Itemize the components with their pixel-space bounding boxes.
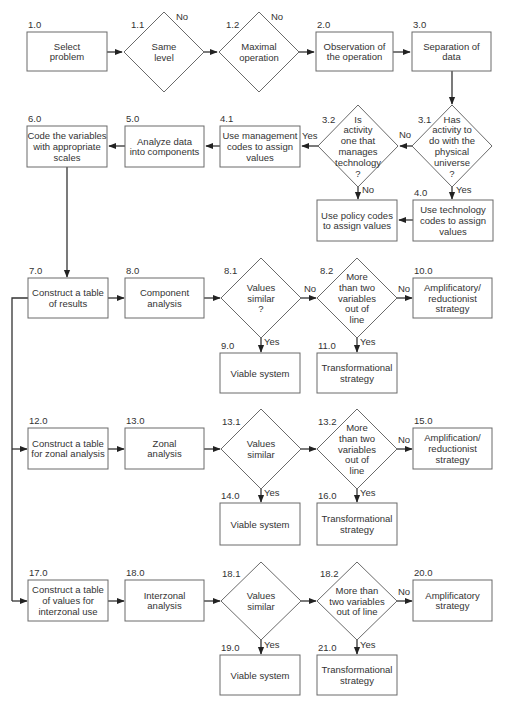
node-text-line: physical (435, 146, 469, 157)
node-text-line: Observation of (324, 41, 386, 52)
node-text-line: Same (152, 41, 177, 52)
node-id-label: 3.2 (322, 114, 335, 125)
node-id-label: 14.0 (221, 490, 240, 501)
node-text-line: More (346, 271, 368, 282)
decision-18-1: 18.1Valuessimilar (221, 562, 301, 640)
edge-label-3.2-yes: Yes (302, 130, 318, 141)
edge-label-13.2-no: No (398, 434, 410, 445)
process-18-0: 18.0Interzonalanalysis (125, 567, 204, 621)
node-text-line: Use technology (420, 204, 486, 215)
process-1-0: 1.0Selectproblem (27, 19, 107, 71)
decision-1-1: 1.1Samelevel (124, 12, 204, 92)
node-text-line: Viable system (231, 368, 290, 379)
node-text-line: data (442, 51, 461, 62)
node-text-line: Amplificatory (425, 590, 480, 601)
process-13-0: 13.0Zonalanalysis (125, 415, 204, 469)
node-id-label: 4.0 (414, 187, 427, 198)
decision-1-2: 1.2Maximaloperation (219, 12, 299, 92)
nodes-layer: 1.0Selectproblem1.1Samelevel1.2Maximalop… (27, 12, 493, 695)
flowchart: No No No Yes Yes No No Yes No Yes Yes No… (0, 0, 505, 704)
node-id-label: 15.0 (414, 415, 433, 426)
node-text-line: interzonal use (38, 606, 97, 617)
node-text-line: Code the variables (27, 130, 106, 141)
node-text-line: ? (449, 168, 454, 179)
process-12-0: 12.0Construct a tablefor zonal analysis (28, 415, 108, 469)
process-17-0: 17.0Construct a tableof values forinterz… (28, 567, 108, 621)
node-text-line: do with the (429, 135, 475, 146)
node-text-line: Construct a table (32, 438, 104, 449)
node-text-line: Transformational (322, 513, 393, 524)
node-text-line: reductionist (428, 443, 477, 454)
edge-label-18.2-no: No (398, 586, 410, 597)
node-text-line: to assign values (323, 220, 391, 231)
decision-8-2: 8.2Morethan twovariablesout ofline (317, 258, 397, 338)
node-id-label: 20.0 (414, 567, 433, 578)
node-text-line: Values (247, 282, 276, 293)
node-text-line: Transformational (322, 664, 393, 675)
node-text-line: Amplificatory/ (424, 282, 481, 293)
node-id-label: 1.0 (28, 19, 41, 30)
node-text-line: Has (444, 114, 461, 125)
edge-label-1.2-no: No (271, 11, 283, 22)
node-text-line: of results (49, 298, 88, 309)
edge-label-13.1-yes: Yes (264, 487, 280, 498)
node-id-label: 18.1 (222, 568, 241, 579)
node-text-line: problem (50, 51, 84, 62)
node-text-line: codes to assign (227, 141, 293, 152)
node-text-line: Interzonal (144, 590, 186, 601)
node-text-line: activity to (432, 124, 472, 135)
edge-label-8.1-yes: Yes (264, 336, 280, 347)
node-text-line: analysis (147, 600, 182, 611)
process-8-0: 8.0Componentanalysis (125, 265, 204, 318)
node-text-line: universe (434, 157, 470, 168)
node-text-line: operation (239, 52, 279, 63)
node-id-label: 8.0 (126, 265, 139, 276)
node-id-label: 1.2 (226, 19, 239, 30)
node-id-label: 2.0 (317, 19, 330, 30)
node-text-line: Separation of (423, 41, 480, 52)
node-text-line: Values (247, 590, 276, 601)
edge-label-8.2-no: No (398, 283, 410, 294)
node-id-label: 3.0 (413, 19, 426, 30)
node-text-line: line (350, 314, 365, 325)
edge-label-3.1-yes: Yes (456, 184, 472, 195)
node-text-line: than two (339, 282, 375, 293)
node-id-label: 3.1 (418, 114, 431, 125)
node-text-line: strategy (340, 524, 374, 535)
decision-13-1: 13.1Valuessimilar (221, 409, 301, 489)
node-text-line: with appropriate (32, 141, 101, 152)
node-text-line: Maximal (241, 41, 276, 52)
node-text-line: two variables (329, 596, 385, 607)
node-text-line: Component (140, 287, 189, 298)
node-text-line: Zonal (153, 438, 177, 449)
node-id-label: 13.1 (222, 416, 241, 427)
node-id-label: 8.1 (224, 265, 237, 276)
node-text-line: similar (247, 601, 274, 612)
node-text-line: line (350, 465, 365, 476)
node-text-line: analysis (147, 448, 182, 459)
node-id-label: 8.2 (320, 265, 333, 276)
node-text-line: than two (339, 433, 375, 444)
node-text-line: strategy (340, 373, 374, 384)
node-text-line: level (154, 52, 174, 63)
node-text-line: for zonal analysis (31, 448, 105, 459)
process-20-0: 20.0Amplificatorystrategy (413, 567, 492, 621)
node-text-line: Transformational (322, 362, 393, 373)
node-id-label: 5.0 (126, 113, 139, 124)
decision-3-1: 3.1Hasactivity todo with thephysicaluniv… (412, 105, 492, 187)
process-3-0: 3.0Separation ofdata (412, 19, 491, 71)
decision-13-2: 13.2Morethan twovariablesout ofline (317, 409, 397, 489)
node-text-line: variables (338, 293, 376, 304)
node-text-line: Is (354, 114, 362, 125)
node-id-label: 4.1 (220, 113, 233, 124)
node-id-label: 7.0 (29, 265, 42, 276)
node-text-line: into components (130, 146, 200, 157)
edge-label-13.2-yes: Yes (360, 487, 376, 498)
process-4-1: 4.1Use managementcodes to assignvalues (220, 113, 300, 167)
node-text-line: similar (247, 449, 274, 460)
node-id-label: 16.0 (318, 490, 337, 501)
node-text-line: Values (247, 438, 276, 449)
node-text-line: variables (338, 444, 376, 455)
node-id-label: 6.0 (28, 113, 41, 124)
node-id-label: 13.0 (126, 415, 145, 426)
